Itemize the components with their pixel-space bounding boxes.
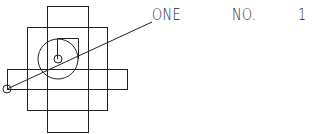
number-label: NO. (232, 6, 256, 24)
name-label: ONE (152, 6, 181, 24)
number-value: 1 (298, 6, 307, 24)
horizontal-bar-rectangle (8, 70, 128, 90)
leader-line (7, 22, 152, 89)
